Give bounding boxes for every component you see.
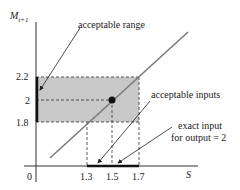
annotation-exact-input-2: for output = 2 [171, 132, 226, 143]
y-tick-1.8: 1.8 [16, 117, 29, 128]
x-tick-1.5: 1.5 [106, 171, 119, 182]
x-axis-label: S [186, 169, 191, 180]
y-axis-label-subscript: t+1 [18, 16, 28, 24]
shaded-region [36, 77, 139, 122]
x-tick-1.3: 1.3 [80, 171, 93, 182]
annotation-exact-input-1: exact input [178, 120, 222, 131]
x-tick-1.7: 1.7 [132, 171, 145, 182]
y-tick-2.2: 2.2 [16, 71, 29, 82]
exact-point [109, 97, 116, 104]
y-axis-label: Mt+1 [10, 10, 29, 26]
diagram-canvas: Mt+1 2.2 2 1.8 0 1.3 1.5 1.7 S acceptabl… [0, 0, 240, 190]
origin-label: 0 [27, 171, 32, 182]
y-tick-2: 2 [25, 95, 30, 106]
annotation-acceptable-inputs: acceptable inputs [151, 89, 220, 100]
annotation-acceptable-range: acceptable range [78, 19, 145, 30]
arrow-exact-input [118, 127, 172, 163]
